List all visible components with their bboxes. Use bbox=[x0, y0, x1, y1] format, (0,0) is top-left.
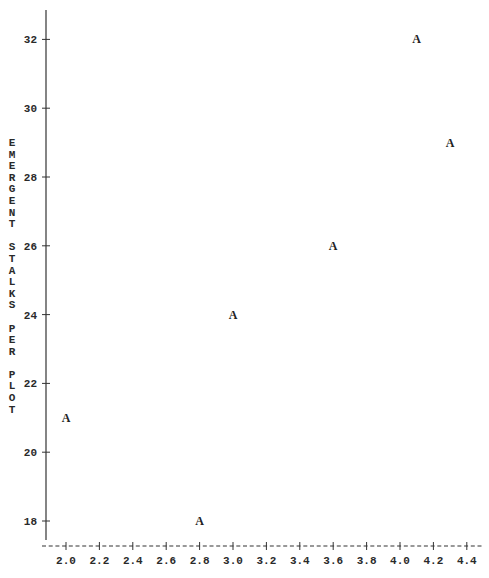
x-tick-label: 2.2 bbox=[89, 555, 109, 567]
x-tick-label: 3.8 bbox=[357, 555, 377, 567]
data-point-marker: A bbox=[412, 32, 421, 46]
x-tick-label: 3.6 bbox=[323, 555, 343, 567]
data-point-marker: A bbox=[446, 136, 455, 150]
y-tick-label: 24 bbox=[24, 310, 38, 322]
y-tick-label: 30 bbox=[24, 103, 37, 115]
x-tick-label: 2.4 bbox=[123, 555, 143, 567]
data-point-marker: A bbox=[329, 239, 338, 253]
x-tick-label: 2.0 bbox=[56, 555, 76, 567]
y-tick-label: 26 bbox=[24, 241, 37, 253]
data-point-marker: A bbox=[62, 411, 71, 425]
data-points: AAAAAA bbox=[62, 32, 455, 528]
y-tick-label: 32 bbox=[24, 34, 37, 46]
y-tick-label: 18 bbox=[24, 516, 38, 528]
data-point-marker: A bbox=[229, 308, 238, 322]
x-tick-label: 3.4 bbox=[290, 555, 310, 567]
y-tick-label: 28 bbox=[24, 172, 38, 184]
x-tick-label: 3.2 bbox=[256, 555, 276, 567]
scatter-plot: 1820222426283032 2.02.22.42.62.83.03.23.… bbox=[0, 0, 489, 578]
x-tick-label: 4.4 bbox=[457, 555, 477, 567]
x-tick-label: 3.0 bbox=[223, 555, 243, 567]
x-tick-label: 4.2 bbox=[423, 555, 443, 567]
x-tick-label: 4.0 bbox=[390, 555, 410, 567]
data-point-marker: A bbox=[195, 514, 204, 528]
x-tick-label: 2.8 bbox=[190, 555, 210, 567]
y-tick-label: 22 bbox=[24, 378, 37, 390]
x-tick-label: 2.6 bbox=[156, 555, 176, 567]
y-tick-label: 20 bbox=[24, 447, 37, 459]
